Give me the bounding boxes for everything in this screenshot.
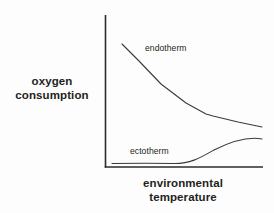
y-axis-title-line2: consumption	[15, 89, 88, 101]
ectotherm-series-label: ectotherm	[130, 146, 169, 156]
y-axis-title: oxygen consumption	[8, 75, 96, 102]
y-axis-title-line1: oxygen	[32, 75, 73, 87]
x-axis-title-line2: temperature	[149, 191, 217, 203]
endotherm-curve	[122, 44, 262, 127]
x-axis-title-line1: environmental	[143, 177, 223, 189]
chart-figure: oxygen consumption environmental tempera…	[0, 0, 274, 213]
endotherm-series-label: endotherm	[145, 43, 187, 53]
x-axis-title: environmental temperature	[118, 177, 248, 204]
